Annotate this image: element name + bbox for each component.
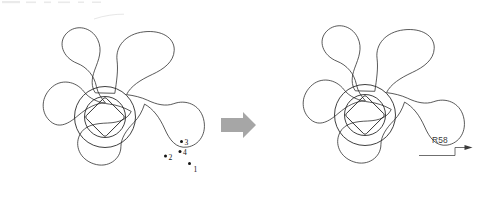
hub-outer-circle: [75, 87, 136, 148]
point-marker-1: [188, 162, 191, 165]
transform-arrow: [221, 112, 256, 138]
hub-outer-circle: [335, 85, 396, 146]
diagram-canvas: 1 2 3 4 R58: [0, 0, 488, 217]
point-label-1: 1: [194, 165, 198, 174]
dimension-leader-line: [419, 148, 470, 156]
point-marker-4: [179, 150, 182, 153]
spinner-outline: [43, 28, 204, 165]
point-marker-2: [164, 155, 167, 158]
point-label-2: 2: [169, 153, 173, 162]
dimension-label-r58: R58: [432, 135, 448, 145]
dimension-arrowhead: [465, 145, 473, 150]
scan-smudge: [2, 1, 124, 19]
spinner-figure: 1 2 3 4 R58: [0, 0, 488, 217]
point-label-3: 3: [185, 138, 189, 147]
point-labels: 1 2 3 4: [169, 138, 198, 174]
left-spinner-group: 1 2 3 4: [43, 28, 204, 174]
point-label-4: 4: [183, 148, 187, 157]
point-marker-3: [180, 140, 183, 143]
